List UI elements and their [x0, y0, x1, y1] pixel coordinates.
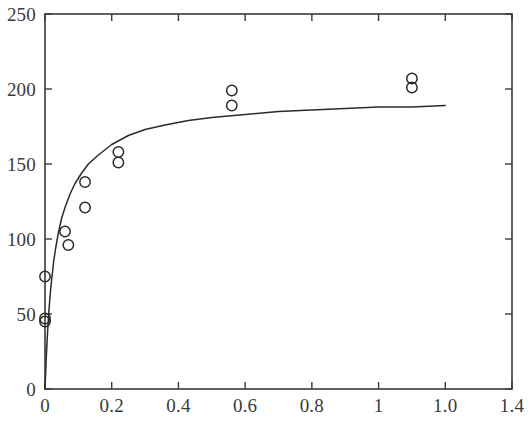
x-tick-label-6: 1.0 [433, 396, 457, 415]
data-point-markers [40, 73, 417, 326]
fitted-curve-path [45, 106, 445, 390]
data-point-marker [227, 85, 237, 95]
data-point-marker [80, 177, 90, 187]
data-point-marker [227, 100, 237, 110]
x-tick-label-0: 0 [40, 396, 50, 415]
y-tick-label-0: 0 [0, 380, 36, 399]
x-tick-label-5: 1 [374, 396, 384, 415]
x-tick-label-3: 0.6 [233, 396, 257, 415]
data-point-marker [63, 240, 73, 250]
y-tick-label-2: 100 [0, 230, 36, 249]
y-axis-ticks [45, 14, 512, 389]
axes-frame [45, 14, 512, 389]
data-point-marker [80, 202, 90, 212]
x-axis-ticks [45, 14, 512, 389]
y-tick-label-5: 250 [0, 5, 36, 24]
data-point-marker [113, 147, 123, 157]
x-tick-label-1: 0.2 [100, 396, 124, 415]
chart-figure: 050100150200250 00.20.40.60.811.01.4 [0, 0, 531, 425]
x-tick-label-2: 0.4 [166, 396, 190, 415]
x-tick-label-7: 1.4 [500, 396, 524, 415]
y-tick-label-3: 150 [0, 155, 36, 174]
plot-border [45, 14, 512, 389]
data-point-marker [60, 226, 70, 236]
y-tick-label-4: 200 [0, 80, 36, 99]
data-point-marker [113, 157, 123, 167]
y-tick-label-1: 50 [0, 305, 36, 324]
fitted-curve [45, 106, 445, 390]
plot-canvas [0, 0, 531, 425]
x-tick-label-4: 0.8 [300, 396, 324, 415]
